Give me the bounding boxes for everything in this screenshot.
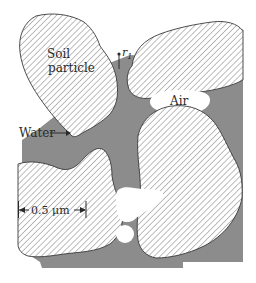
air-pocket-small: [116, 225, 134, 243]
soil-pore-diagram: r1 Soil particle Air Water 0.5 μm: [0, 0, 256, 283]
radius-label: r1: [122, 46, 132, 61]
soil-particle-label-line1: Soil: [47, 47, 70, 61]
scale-label: 0.5 μm: [31, 204, 70, 217]
water-label: Water: [19, 126, 55, 140]
soil-particle-label-line2: particle: [48, 61, 95, 75]
air-label: Air: [169, 94, 189, 108]
soil-particle-top-right: [127, 21, 243, 98]
soil-particle-top-left: [20, 14, 118, 137]
